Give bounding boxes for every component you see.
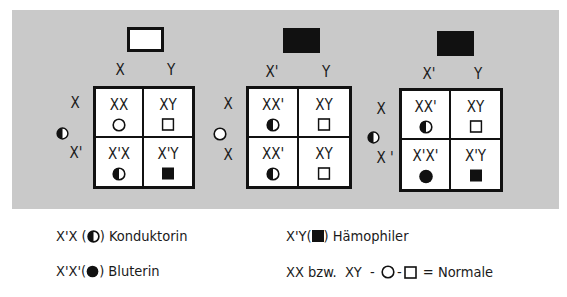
- punnett-cell: X'X': [402, 140, 451, 189]
- legend-text: -: [397, 264, 402, 280]
- punnett-square-1: XX XY X'X X'Y: [93, 86, 195, 189]
- legend-text: ) Hämophiler: [324, 228, 409, 244]
- legend-bleeder-female: X'X'( ) Bluterin: [56, 263, 160, 279]
- punnett-square-2: XX' XY XX' XY: [246, 86, 352, 189]
- genotype-label: X'Y: [465, 148, 486, 164]
- mother-gamete-1: X: [376, 101, 385, 117]
- father-symbol-normal-male: [127, 27, 164, 52]
- punnett-cell: XX': [402, 91, 451, 140]
- punnett-cell: XX': [249, 138, 299, 187]
- father-symbol-affected-male: [283, 28, 320, 53]
- genotype-label: XY: [467, 99, 484, 115]
- punnett-cell: XX': [249, 89, 299, 138]
- punnett-cell: X'Y: [451, 140, 500, 189]
- punnett-cell: XY: [451, 91, 500, 140]
- legend-hemophiliac: X'Y( ) Hämophiler: [286, 228, 409, 244]
- legend-text: ) Bluterin: [99, 263, 159, 279]
- square-filled-icon: [312, 230, 324, 242]
- genotype-label: XY: [159, 97, 176, 113]
- circle-half-icon: [112, 167, 126, 181]
- square-open-icon: [318, 167, 331, 180]
- legend-text: X'Y(: [286, 228, 312, 244]
- circle-half-icon: [419, 120, 433, 134]
- mother-gamete-1: X: [70, 95, 79, 111]
- punnett-cell: XY: [299, 138, 349, 187]
- mother-gamete-2: X': [70, 145, 83, 161]
- mother-symbol-circle-open-icon: [213, 127, 227, 141]
- genotype-label: X'X: [108, 146, 130, 162]
- square-open-icon: [318, 118, 331, 131]
- square-open-icon: [469, 120, 482, 133]
- legend-text: = Normale: [419, 264, 493, 280]
- mother-gamete-2: X ': [376, 150, 393, 166]
- circle-half-icon: [87, 230, 100, 243]
- genotype-label: XX': [262, 97, 284, 113]
- genotype-label: XX': [262, 146, 284, 162]
- genotype-label: XX': [414, 99, 436, 115]
- circle-open-icon: [112, 118, 126, 132]
- father-gamete-1: X: [115, 62, 124, 78]
- punnett-cell: XY: [299, 89, 349, 138]
- circle-half-icon: [266, 167, 280, 181]
- punnett-cell: XX: [96, 89, 144, 138]
- father-gamete-2: Y: [167, 62, 175, 78]
- legend-text: ) Konduktorin: [100, 228, 188, 244]
- genotype-label: XY: [315, 146, 332, 162]
- circle-filled-icon: [418, 169, 433, 184]
- legend-text: X'X (: [56, 228, 87, 244]
- square-filled-icon: [469, 169, 482, 182]
- genotype-label: XX: [110, 97, 129, 113]
- father-gamete-2: Y: [322, 64, 330, 80]
- circle-half-icon: [266, 118, 280, 132]
- legend-normal: XX bzw. XY - - = Normale: [286, 264, 493, 280]
- genotype-label: X'X': [413, 148, 439, 164]
- legend-text: X'X'(: [56, 263, 86, 279]
- punnett-square-3: XX' XY X'X' X'Y: [399, 88, 503, 192]
- mother-symbol-half-circle-icon: [367, 131, 380, 144]
- circle-open-icon: [381, 265, 395, 279]
- punnett-cell: X'Y: [144, 138, 192, 187]
- circle-filled-icon: [86, 265, 99, 278]
- square-filled-icon: [162, 167, 175, 180]
- punnett-cell: XY: [144, 89, 192, 138]
- legend-conductor: X'X ( ) Konduktorin: [56, 228, 187, 244]
- father-gamete-1: X': [266, 64, 279, 80]
- mother-symbol-half-circle-icon: [56, 127, 69, 140]
- father-gamete-1: X': [423, 66, 436, 82]
- mother-gamete-1: X: [223, 96, 232, 112]
- square-open-icon: [404, 266, 417, 279]
- mother-gamete-2: X: [223, 147, 232, 163]
- square-open-icon: [162, 118, 175, 131]
- legend-text: XX bzw. XY -: [286, 264, 379, 280]
- genotype-label: X'Y: [157, 146, 178, 162]
- father-gamete-2: Y: [474, 66, 482, 82]
- father-symbol-affected-male: [437, 31, 474, 56]
- genotype-label: XY: [315, 97, 332, 113]
- punnett-cell: X'X: [96, 138, 144, 187]
